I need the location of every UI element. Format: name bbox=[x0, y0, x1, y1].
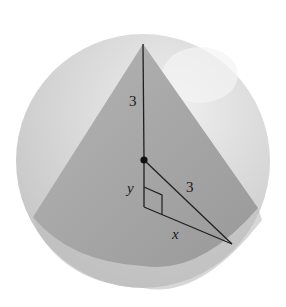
label-y: y bbox=[125, 180, 134, 196]
label-x: x bbox=[171, 226, 179, 242]
label-apex-segment: 3 bbox=[129, 93, 137, 109]
label-slant-radius: 3 bbox=[186, 179, 194, 195]
sphere-cone-diagram: 3 3 y x bbox=[0, 0, 286, 307]
center-point bbox=[140, 156, 147, 163]
